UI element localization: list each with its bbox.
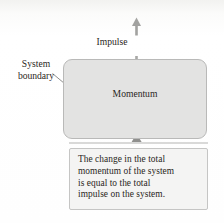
momentum-label: Momentum — [63, 88, 207, 100]
caption-box: The change in the total momentum of the … — [69, 148, 208, 210]
impulse-label: Impulse — [0, 36, 224, 48]
system-boundary-label: System boundary — [8, 58, 64, 81]
arrow-up-icon — [132, 18, 141, 36]
impulse-momentum-diagram: Impulse Momentum System boundary The cha… — [0, 0, 224, 223]
caption-text: The change in the total momentum of the … — [78, 154, 200, 201]
